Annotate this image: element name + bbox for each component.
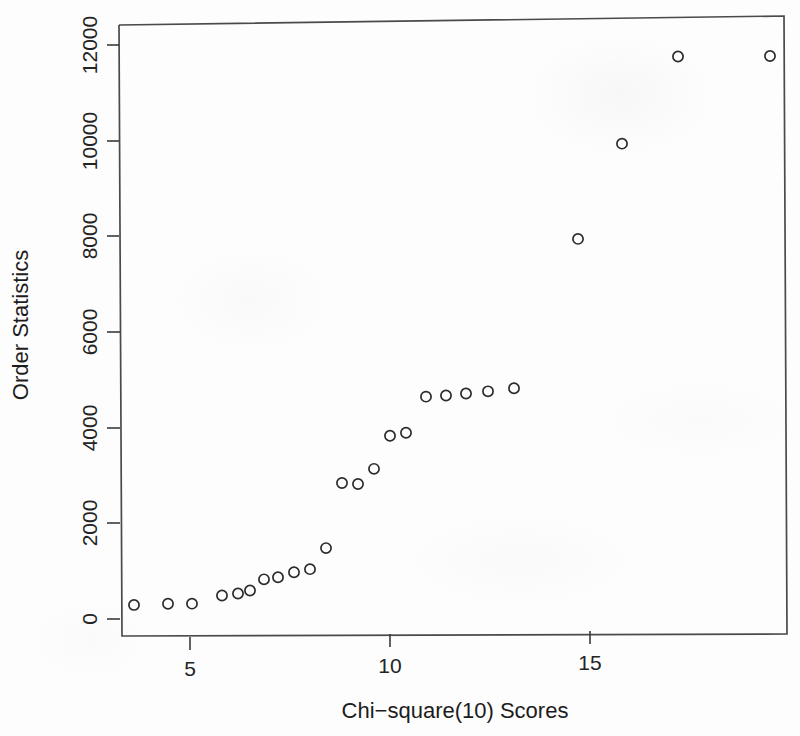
scatter-plot-figure: 0 2000 4000 6000 8000 10000 12000 5 10 1… — [0, 0, 800, 736]
data-point — [385, 431, 395, 441]
x-tick-label-15: 15 — [578, 651, 601, 674]
data-point — [245, 585, 255, 595]
y-tick-label-12000: 12000 — [78, 16, 101, 74]
x-axis-title: Chi−square(10) Scores — [342, 698, 569, 723]
y-tick-label-4000: 4000 — [78, 405, 101, 452]
data-point — [369, 464, 379, 474]
data-point — [233, 588, 243, 598]
data-point — [673, 51, 683, 61]
data-point — [305, 564, 315, 574]
data-points-layer — [129, 51, 775, 610]
x-tick-label-10: 10 — [378, 654, 401, 677]
y-tick-label-8000: 8000 — [78, 213, 101, 260]
data-point — [163, 599, 173, 609]
y-axis-tick-labels: 0 2000 4000 6000 8000 10000 12000 — [78, 16, 101, 625]
y-axis-ticks — [107, 45, 120, 619]
data-point — [273, 572, 283, 582]
data-point — [461, 388, 471, 398]
y-axis-title: Order Statistics — [8, 250, 33, 400]
data-point — [187, 599, 197, 609]
data-point — [617, 139, 627, 149]
data-point — [401, 428, 411, 438]
data-point — [765, 51, 775, 61]
x-tick-label-5: 5 — [184, 657, 196, 680]
data-point — [573, 234, 583, 244]
data-point — [421, 392, 431, 402]
data-point — [441, 390, 451, 400]
plot-frame-border — [119, 16, 787, 636]
y-tick-label-2000: 2000 — [78, 500, 101, 547]
data-point — [337, 478, 347, 488]
y-tick-label-10000: 10000 — [78, 112, 101, 170]
data-point — [353, 479, 363, 489]
data-point — [259, 574, 269, 584]
x-axis-ticks — [190, 631, 590, 650]
data-point — [321, 543, 331, 553]
data-point — [289, 567, 299, 577]
y-tick-label-6000: 6000 — [78, 309, 101, 356]
data-point — [483, 386, 493, 396]
data-point — [217, 590, 227, 600]
y-tick-label-0: 0 — [78, 613, 101, 625]
plot-frame — [119, 16, 787, 636]
data-point — [129, 600, 139, 610]
data-point — [509, 383, 519, 393]
plot-canvas: 0 2000 4000 6000 8000 10000 12000 5 10 1… — [0, 0, 800, 736]
x-axis-tick-labels: 5 10 15 — [184, 651, 602, 680]
